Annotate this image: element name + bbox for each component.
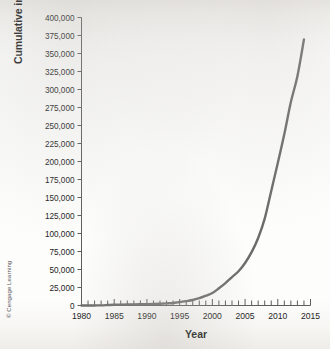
x-axis-title: Year — [81, 328, 311, 340]
y-axis-tick-label: 250,000 — [45, 122, 75, 131]
x-axis-tick-label: 1990 — [137, 311, 156, 321]
x-axis-tick-label: 1995 — [170, 311, 189, 321]
y-axis-tick-label: 200,000 — [45, 158, 75, 167]
y-axis-title: Cumulative installed capacity — [12, 0, 28, 92]
y-axis-tick-label: 375,000 — [45, 32, 75, 41]
y-axis-tick-label: 75,000 — [49, 248, 74, 257]
line-chart: 025,00050,00075,000100,000125,000150,000… — [0, 0, 330, 349]
y-axis-tick-label: 175,000 — [45, 176, 75, 185]
x-axis-tick-label: 2000 — [203, 311, 222, 321]
y-axis-tick-label: 25,000 — [49, 284, 74, 293]
y-axis-tick-label: 125,000 — [45, 212, 75, 221]
y-axis-tick-label: 325,000 — [45, 68, 75, 77]
x-axis-tick-label: 1980 — [72, 311, 91, 321]
figure-container: 025,00050,00075,000100,000125,000150,000… — [0, 0, 330, 349]
y-axis-tick-label: 0 — [70, 302, 75, 311]
y-axis-tick-label: 350,000 — [45, 50, 75, 59]
x-axis-tick-label: 2005 — [236, 311, 255, 321]
copyright-credit: © Cengage Learning — [6, 218, 18, 318]
data-series-line — [82, 39, 304, 305]
y-axis-tick-label: 300,000 — [45, 86, 75, 95]
y-axis-tick-label: 50,000 — [49, 266, 74, 275]
x-axis-tick-label: 2010 — [268, 311, 287, 321]
y-axis-tick-label: 100,000 — [45, 230, 75, 239]
x-axis-tick-label: 2015 — [301, 311, 320, 321]
y-axis-tick-label: 225,000 — [45, 140, 75, 149]
y-axis-tick-label: 150,000 — [45, 194, 75, 203]
y-axis-tick-label: 400,000 — [45, 14, 75, 23]
x-axis-tick-label: 1985 — [105, 311, 124, 321]
y-axis-tick-label: 275,000 — [45, 104, 75, 113]
